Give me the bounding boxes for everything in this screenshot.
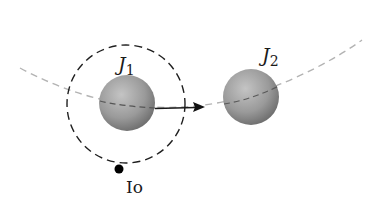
- io-moon: [115, 165, 124, 174]
- label-io: Io: [126, 177, 143, 197]
- jupiter-orbit-path: [20, 40, 362, 107]
- motion-arrow-shaft: [155, 108, 196, 109]
- jupiter-io-diagram: J1 J2 Io: [0, 0, 374, 199]
- jupiter-position-2: [223, 69, 279, 125]
- label-j2: J2: [258, 44, 279, 69]
- label-j1: J1: [114, 53, 135, 78]
- jupiter-position-1: [99, 75, 155, 131]
